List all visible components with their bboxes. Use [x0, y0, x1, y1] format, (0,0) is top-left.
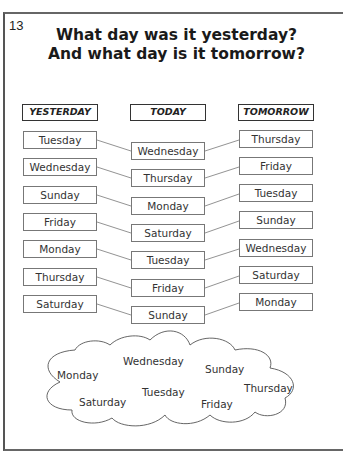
cloud-word-friday: Friday: [201, 398, 233, 410]
yesterday-box-1: Tuesday: [23, 131, 97, 149]
yesterday-box-4: Friday: [23, 213, 97, 231]
cloud-word-tuesday: Tuesday: [142, 386, 185, 398]
tomorrow-box-4: Sunday: [239, 211, 313, 229]
tomorrow-box-1: Thursday: [239, 130, 313, 148]
cloud-word-saturday: Saturday: [79, 396, 126, 408]
tomorrow-box-7: Monday: [239, 293, 313, 311]
cloud-word-wednesday: Wednesday: [123, 355, 184, 367]
today-box-2: Thursday: [131, 169, 205, 187]
yesterday-box-3: Sunday: [23, 186, 97, 204]
today-box-7: Sunday: [131, 306, 205, 324]
tomorrow-box-2: Friday: [239, 157, 313, 175]
today-box-4: Saturday: [131, 224, 205, 242]
today-box-1: Wednesday: [131, 142, 205, 160]
today-box-3: Monday: [131, 197, 205, 215]
tomorrow-box-3: Tuesday: [239, 184, 313, 202]
today-box-6: Friday: [131, 279, 205, 297]
tomorrow-box-6: Saturday: [239, 266, 313, 284]
cloud-word-thursday: Thursday: [244, 382, 293, 394]
today-box-5: Tuesday: [131, 251, 205, 269]
cloud-word-monday: Monday: [57, 369, 98, 381]
yesterday-box-2: Wednesday: [23, 158, 97, 176]
tomorrow-box-5: Wednesday: [239, 239, 313, 257]
yesterday-box-6: Thursday: [23, 268, 97, 286]
cloud-word-sunday: Sunday: [205, 363, 244, 375]
yesterday-box-7: Saturday: [23, 295, 97, 313]
yesterday-box-5: Monday: [23, 240, 97, 258]
